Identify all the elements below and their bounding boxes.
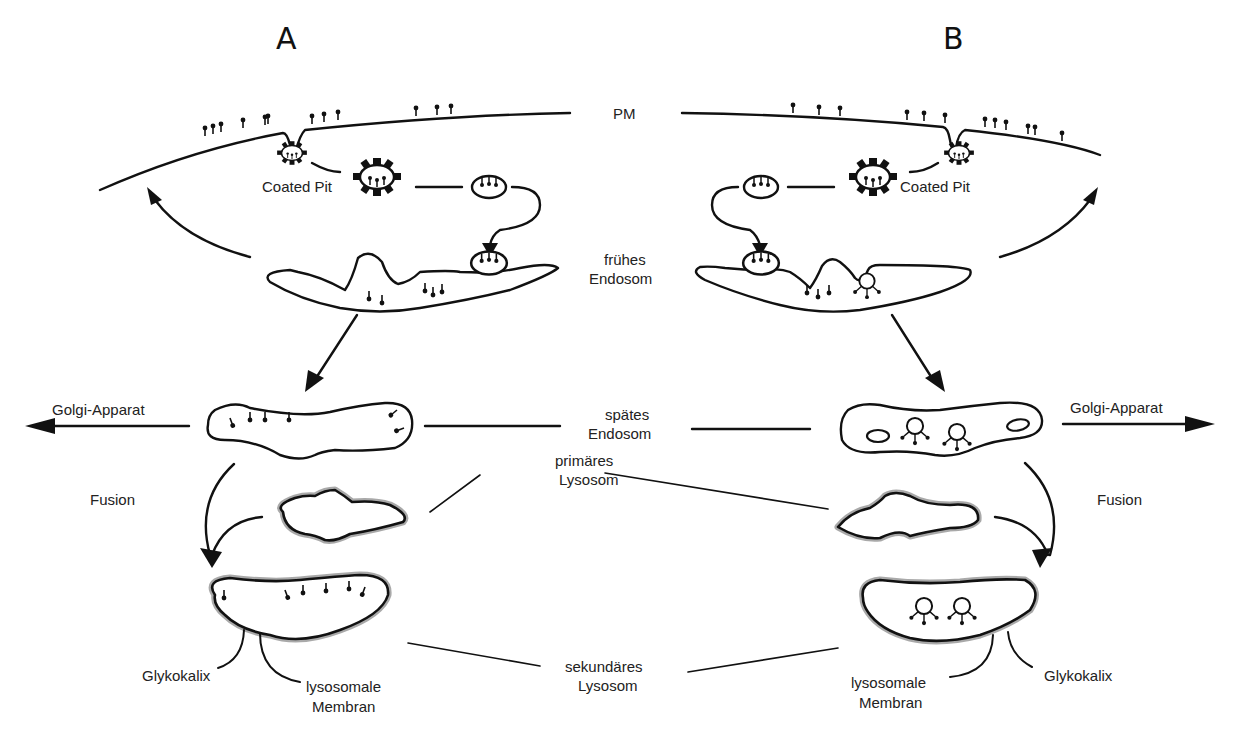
label-plasma-membrane: PM <box>613 105 636 122</box>
fusion-arrowhead-a <box>200 548 222 568</box>
late-endosome-b-small-vesicle <box>867 430 889 442</box>
connector-secondary-lysosome-a <box>408 643 540 666</box>
primary-lysosome-b <box>838 493 978 538</box>
connector-pit-a <box>312 163 340 172</box>
label-glycocalyx-b: Glykokalix <box>1044 667 1113 684</box>
golgi-arrowhead-b <box>1185 416 1215 432</box>
center-labels: PM frühes Endosom spätes Endosom primäre… <box>555 105 652 694</box>
primary-lysosome-a <box>281 490 405 540</box>
arrow-early-late-a <box>318 315 357 375</box>
connector-pit-b <box>910 163 938 172</box>
label-fusion-a: Fusion <box>90 491 135 508</box>
recycling-arrowhead-a <box>147 187 162 205</box>
label-early-endosome-2: Endosom <box>589 270 652 287</box>
connector-primary-lysosome-a <box>430 475 480 512</box>
coated-pit-a <box>277 141 307 165</box>
connector-primary-lysosome-b <box>605 473 828 509</box>
coated-vesicle-a <box>353 158 401 196</box>
panel-b: Coated Pit <box>605 103 1215 711</box>
panel-a: Coated Pit <box>25 104 570 715</box>
pointer-glycocalyx-b <box>1008 632 1032 667</box>
label-late-endosome-1: spätes <box>605 406 649 423</box>
label-secondary-lysosome-2: Lysosom <box>578 677 637 694</box>
label-coated-pit-a: Coated Pit <box>262 178 333 195</box>
panel-label-b: B <box>943 21 964 56</box>
arrowhead-early-late-a <box>305 370 324 392</box>
pointer-glycocalyx-a <box>218 630 244 668</box>
label-primary-lysosome-1: primäres <box>555 452 613 469</box>
recycling-arrowhead-b <box>1083 187 1098 205</box>
secondary-lysosome-a <box>212 575 388 639</box>
label-lysosomal-membrane-a-2: Membran <box>312 698 375 715</box>
label-late-endosome-2: Endosom <box>588 425 651 442</box>
uncoated-vesicle-a <box>472 176 506 198</box>
label-golgi-a: Golgi-Apparat <box>52 401 145 418</box>
coated-vesicle-b <box>849 158 897 196</box>
panel-label-a: A <box>276 21 297 56</box>
plasma-membrane-b <box>682 113 1100 155</box>
coated-pit-b <box>944 141 974 165</box>
connector-secondary-lysosome-b <box>688 648 838 672</box>
late-endosome-a <box>208 403 413 459</box>
label-early-endosome-1: frühes <box>604 251 646 268</box>
label-secondary-lysosome-1: sekundäres <box>565 658 643 675</box>
label-golgi-b: Golgi-Apparat <box>1070 399 1163 416</box>
early-endosome-b <box>696 259 971 311</box>
fusing-vesicle-b <box>743 251 779 274</box>
label-coated-pit-b: Coated Pit <box>900 178 971 195</box>
fusion-path-primary-a <box>212 517 262 555</box>
label-lysosomal-membrane-b-1: lysosomale <box>851 674 926 691</box>
recycling-arrow-b <box>1000 200 1090 257</box>
fusing-vesicle-a <box>471 251 507 274</box>
arrow-early-late-b <box>892 315 930 375</box>
endocytosis-lysosome-diagram: A B Coated Pit <box>0 0 1237 730</box>
golgi-arrowhead-a <box>25 418 55 434</box>
recycling-arrow-a <box>155 200 250 257</box>
label-fusion-b: Fusion <box>1097 491 1142 508</box>
label-glycocalyx-a: Glykokalix <box>142 667 211 684</box>
early-endosome-a <box>268 254 559 312</box>
label-lysosomal-membrane-b-2: Membran <box>859 694 922 711</box>
surface-receptors-b <box>791 103 1065 141</box>
fusion-arrowhead-b <box>1032 548 1052 568</box>
label-lysosomal-membrane-a-1: lysosomale <box>306 678 381 695</box>
uncoated-vesicle-b <box>744 176 778 198</box>
